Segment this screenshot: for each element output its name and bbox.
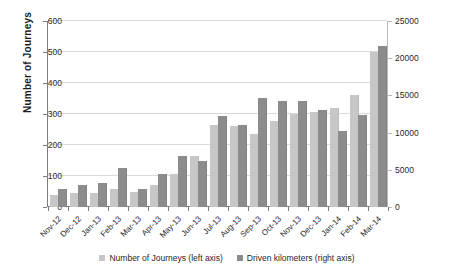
bar-group — [228, 21, 248, 207]
y-tick-mark-left — [43, 114, 47, 115]
bar — [218, 116, 226, 207]
bar-group — [288, 21, 308, 207]
y-tick-mark-left — [43, 145, 47, 146]
bar-group — [188, 21, 208, 207]
bar — [50, 195, 58, 207]
x-tick-mark — [168, 207, 169, 211]
bar — [70, 193, 78, 207]
bar-group — [148, 21, 168, 207]
bar-group — [348, 21, 368, 207]
y-tick-label-right: 0 — [395, 203, 435, 211]
bar — [230, 126, 238, 207]
bar — [118, 168, 126, 207]
x-tick-label: Feb-14 — [333, 214, 363, 244]
x-tick-mark — [208, 207, 209, 211]
bar-group — [168, 21, 188, 207]
x-tick-mark — [128, 207, 129, 211]
bar — [310, 112, 318, 207]
bar-group — [48, 21, 68, 207]
x-tick-label: Jun-13 — [173, 214, 203, 244]
x-tick-label: Jan-14 — [313, 214, 343, 244]
bar-group — [68, 21, 88, 207]
y-tick-mark-right — [388, 95, 392, 96]
x-tick-mark — [328, 207, 329, 211]
legend-swatch-icon-kilometers — [237, 255, 243, 261]
x-tick-mark — [248, 207, 249, 211]
x-tick-label: Feb-13 — [93, 214, 123, 244]
y-tick-label-right: 20000 — [395, 54, 435, 62]
bar — [98, 183, 106, 207]
y-tick-mark-right — [388, 170, 392, 171]
x-tick-mark — [148, 207, 149, 211]
bar — [130, 192, 138, 207]
bar-group — [108, 21, 128, 207]
bar — [238, 125, 246, 207]
y-tick-mark-left — [43, 207, 47, 208]
legend-swatch-icon-journeys — [99, 255, 105, 261]
bar-group — [88, 21, 108, 207]
bar — [198, 161, 206, 207]
bar — [370, 52, 378, 207]
bar — [210, 125, 218, 207]
bar — [110, 189, 118, 207]
x-tick-label: Oct-13 — [253, 214, 283, 244]
y-tick-mark-right — [388, 133, 392, 134]
y-tick-label-right: 25000 — [395, 17, 435, 25]
bar — [58, 189, 66, 207]
x-tick-mark — [348, 207, 349, 211]
y-tick-mark-right — [388, 21, 392, 22]
chart-legend: Number of Journeys (left axis) Driven ki… — [0, 253, 454, 263]
x-tick-label: Dec-13 — [293, 214, 323, 244]
x-tick-mark — [188, 207, 189, 211]
x-tick-mark — [228, 207, 229, 211]
x-tick-label: Sep-13 — [233, 214, 263, 244]
bar-chart: Number of Journeys 0100200300400500600 0… — [0, 0, 454, 275]
bar — [150, 185, 158, 207]
bar — [190, 156, 198, 207]
bar — [170, 174, 178, 207]
y-tick-mark-left — [43, 52, 47, 53]
bar-group — [268, 21, 288, 207]
bar-group — [308, 21, 328, 207]
x-tick-mark — [88, 207, 89, 211]
y-tick-mark-left — [43, 21, 47, 22]
x-tick-mark — [268, 207, 269, 211]
x-tick-mark — [308, 207, 309, 211]
x-tick-mark — [68, 207, 69, 211]
bar — [358, 115, 366, 207]
x-tick-label: Nov-12 — [33, 214, 63, 244]
bar — [258, 98, 266, 207]
bar — [270, 121, 278, 207]
bar-group — [368, 21, 388, 207]
x-tick-label: Nov-13 — [273, 214, 303, 244]
bar-group — [328, 21, 348, 207]
y-tick-mark-right — [388, 58, 392, 59]
bar — [250, 134, 258, 207]
y-tick-label-right: 15000 — [395, 91, 435, 99]
legend-label-journeys: Number of Journeys (left axis) — [109, 253, 222, 263]
legend-entry-journeys: Number of Journeys (left axis) — [99, 253, 222, 263]
bar — [298, 101, 306, 207]
bar — [350, 95, 358, 207]
x-tick-mark — [108, 207, 109, 211]
legend-label-kilometers: Driven kilometers (right axis) — [247, 253, 355, 263]
bars-layer — [48, 21, 388, 207]
x-tick-label: Mar-14 — [353, 214, 383, 244]
x-tick-mark — [288, 207, 289, 211]
y-tick-mark-left — [43, 83, 47, 84]
y-tick-mark-left — [43, 176, 47, 177]
bar — [138, 189, 146, 207]
x-tick-label: Apr-13 — [133, 214, 163, 244]
bar — [178, 156, 186, 207]
x-tick-label: Jul-13 — [193, 214, 223, 244]
x-tick-label: Mar-13 — [113, 214, 143, 244]
bar — [318, 110, 326, 207]
x-tick-label: May-13 — [153, 214, 183, 244]
x-tick-label: Aug-13 — [213, 214, 243, 244]
x-tick-label: Jan-13 — [73, 214, 103, 244]
bar — [290, 114, 298, 207]
x-tick-label: Dec-12 — [53, 214, 83, 244]
x-tick-mark — [48, 207, 49, 211]
y-tick-label-right: 10000 — [395, 129, 435, 137]
x-tick-mark — [388, 207, 389, 211]
